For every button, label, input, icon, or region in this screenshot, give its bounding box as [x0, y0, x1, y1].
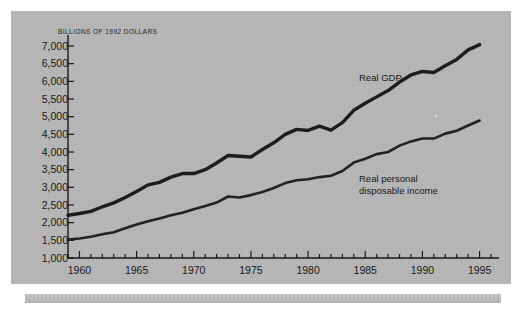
series-label-real-gdp: Real GDP	[359, 72, 402, 84]
data-series	[68, 45, 480, 240]
chart-panel: BILLIONS OF 1992 DOLLARS 7,0006,5006,000…	[11, 11, 511, 284]
footer-divider-bar	[25, 294, 501, 303]
plot-area	[11, 11, 511, 284]
series-label-real-personal-disposable-income: Real personal disposable income	[359, 173, 438, 197]
scan-speck	[435, 115, 437, 117]
